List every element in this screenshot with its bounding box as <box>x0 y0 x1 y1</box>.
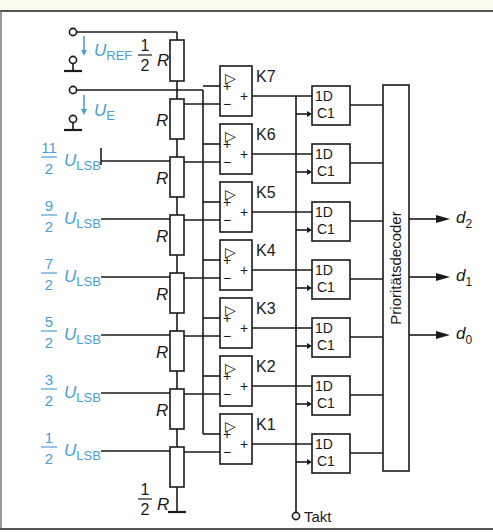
uref-terminal-bottom <box>69 56 76 63</box>
arrow-down-icon <box>81 109 87 115</box>
comparator-out: + <box>240 320 248 336</box>
output-subscript: 2 <box>465 217 472 231</box>
comparator-plus: + <box>223 136 231 152</box>
flipflop-c: C1 <box>317 163 335 179</box>
flipflop-d: 1D <box>315 320 333 336</box>
comparator-label: K1 <box>256 416 276 433</box>
threshold-u: ULSB <box>64 151 101 173</box>
output-label-d1: d1 <box>456 266 472 289</box>
flipflop-c: C1 <box>317 395 335 411</box>
output-label-d2: d2 <box>456 208 472 231</box>
arrow-right-icon <box>436 331 450 339</box>
res-bottom-fraction-den: 2 <box>141 501 150 518</box>
resistor <box>170 389 184 429</box>
threshold-den: 2 <box>45 160 53 177</box>
threshold-num: 1 <box>45 429 53 446</box>
res-top-fraction-num: 1 <box>141 37 150 54</box>
ue-label: UE <box>94 101 115 123</box>
comparator-out: + <box>240 436 248 452</box>
threshold-den: 2 <box>45 392 53 409</box>
comparator-out: + <box>240 262 248 278</box>
comparator-minus: − <box>223 270 231 286</box>
resistor <box>170 157 184 197</box>
threshold-u: ULSB <box>64 441 101 463</box>
threshold-subscript: LSB <box>76 332 101 347</box>
threshold-symbol: U <box>64 267 77 286</box>
output-subscript: 0 <box>465 333 472 347</box>
comparator-label: K5 <box>256 184 276 201</box>
threshold-symbol: U <box>64 209 77 228</box>
threshold-num: 9 <box>45 197 53 214</box>
comparator-plus: + <box>223 78 231 94</box>
threshold-symbol: U <box>64 383 77 402</box>
flipflop-d: 1D <box>315 378 333 394</box>
ue-terminal-top <box>69 86 76 93</box>
threshold-u: ULSB <box>64 383 101 405</box>
threshold-subscript: LSB <box>76 448 101 463</box>
comparator-plus: + <box>223 310 231 326</box>
res-top-fraction-den: 2 <box>141 57 150 74</box>
threshold-num: 5 <box>45 313 53 330</box>
flipflop-c: C1 <box>317 279 335 295</box>
resistor <box>170 40 184 81</box>
comparator-label: K2 <box>256 358 276 375</box>
comparator-minus: − <box>223 212 231 228</box>
threshold-num: 7 <box>45 255 53 272</box>
res-label: R <box>156 285 168 304</box>
resistor <box>170 331 184 371</box>
flipflop-c: C1 <box>317 105 335 121</box>
threshold-subscript: LSB <box>76 390 101 405</box>
clock-terminal <box>292 512 299 519</box>
threshold-subscript: LSB <box>76 274 101 289</box>
threshold-symbol: U <box>64 151 77 170</box>
comparator-label: K6 <box>256 126 276 143</box>
flipflop-c: C1 <box>317 337 335 353</box>
resistor <box>170 215 184 255</box>
threshold-u: ULSB <box>64 209 101 231</box>
comparator-plus: + <box>223 368 231 384</box>
flipflop-d: 1D <box>315 146 333 162</box>
flipflop-d: 1D <box>315 204 333 220</box>
flipflop-d: 1D <box>315 436 333 452</box>
threshold-u: ULSB <box>64 325 101 347</box>
output-label-d0: d0 <box>456 324 472 347</box>
arrow-right-icon <box>436 273 450 281</box>
ue-label-symbol: U <box>94 101 107 120</box>
comparator-minus: − <box>223 328 231 344</box>
threshold-den: 2 <box>45 218 53 235</box>
comparator-out: + <box>240 146 248 162</box>
comparator-label: K7 <box>256 68 276 85</box>
comparator-label: K4 <box>256 242 276 259</box>
threshold-subscript: LSB <box>76 216 101 231</box>
threshold-den: 2 <box>45 276 53 293</box>
comparator-minus: − <box>223 96 231 112</box>
output-subscript: 1 <box>465 275 472 289</box>
comparator-plus: + <box>223 252 231 268</box>
flipflop-c: C1 <box>317 453 335 469</box>
decoder-label: Prioritätsdecoder <box>387 211 404 324</box>
res-label: R <box>156 343 168 362</box>
threshold-den: 2 <box>45 334 53 351</box>
res-label: R <box>156 401 168 420</box>
arrow-right-icon <box>436 215 450 223</box>
flipflop-d: 1D <box>315 88 333 104</box>
uref-label: UREF <box>94 41 132 63</box>
comparator-out: + <box>240 88 248 104</box>
threshold-u: ULSB <box>64 267 101 289</box>
res-label: R <box>156 111 168 130</box>
schematic: UREFUE12RRRRRRR12R112ULSB92ULSB72ULSB52U… <box>0 0 493 532</box>
comparator-minus: − <box>223 386 231 402</box>
circuit-diagram: UREFUE12RRRRRRR12R112ULSB92ULSB72ULSB52U… <box>0 0 493 532</box>
resistor <box>170 99 184 139</box>
comparator-label: K3 <box>256 300 276 317</box>
comparator-minus: − <box>223 154 231 170</box>
comparator-out: + <box>240 378 248 394</box>
res-bottom-fraction-num: 1 <box>141 481 150 498</box>
threshold-subscript: LSB <box>76 158 101 173</box>
comparator-plus: + <box>223 194 231 210</box>
flipflop-c: C1 <box>317 221 335 237</box>
resistor <box>170 447 184 487</box>
ue-terminal-bottom <box>69 115 76 122</box>
ue-label-subscript: E <box>106 108 115 123</box>
res-label: R <box>156 169 168 188</box>
